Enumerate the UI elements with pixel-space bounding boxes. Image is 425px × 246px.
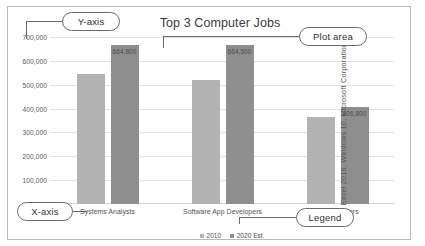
callout-leader-y-axis-drop bbox=[26, 21, 27, 39]
legend-item-2010: 2010 bbox=[200, 232, 221, 239]
chart-legend: 2010 2020 Est. bbox=[200, 232, 265, 239]
callout-leader-plot-area-drop bbox=[163, 36, 164, 48]
callout-y-axis: Y-axis bbox=[62, 12, 120, 31]
bar[interactable] bbox=[192, 80, 220, 204]
legend-label-2020: 2020 Est. bbox=[237, 232, 265, 239]
legend-label-2010: 2010 bbox=[207, 232, 222, 239]
y-axis-tick-label: 400,000 bbox=[22, 105, 47, 112]
bar[interactable] bbox=[307, 117, 335, 204]
callout-leader-legend bbox=[239, 217, 296, 218]
bar[interactable]: 664,500 bbox=[226, 45, 254, 204]
bar[interactable]: 664,800 bbox=[111, 45, 139, 204]
callout-leader-legend-drop bbox=[239, 217, 240, 224]
bar-data-label: 664,500 bbox=[228, 48, 252, 55]
bar[interactable] bbox=[77, 74, 105, 204]
bar-group: 664,800 bbox=[77, 37, 139, 204]
callout-leader-x-axis bbox=[71, 211, 87, 212]
y-axis-tick-label: 100,000 bbox=[22, 177, 47, 184]
y-axis-tick-label: 300,000 bbox=[22, 129, 47, 136]
callout-leader-plot-area bbox=[163, 36, 299, 37]
chart-title: Top 3 Computer Jobs bbox=[130, 16, 310, 30]
y-axis-tick-label: 500,000 bbox=[22, 81, 47, 88]
x-axis-category-label: Software App Developers bbox=[165, 208, 280, 215]
callout-plot-area: Plot area bbox=[299, 27, 367, 46]
source-credit-text: Excel 2016, Windows 10, Microsoft Corpor… bbox=[338, 43, 347, 205]
callout-leader-y-axis bbox=[26, 21, 62, 22]
legend-swatch-icon-2010 bbox=[200, 234, 204, 238]
legend-item-2020: 2020 Est. bbox=[230, 232, 264, 239]
figure-container: Top 3 Computer Jobs 100,000200,000300,00… bbox=[0, 0, 425, 246]
bar-data-label: 664,800 bbox=[113, 48, 137, 55]
y-axis-tick-label: 600,000 bbox=[22, 57, 47, 64]
bar-group: 664,500 bbox=[192, 37, 254, 204]
legend-swatch-icon-2020 bbox=[230, 234, 234, 238]
callout-x-axis: X-axis bbox=[17, 202, 73, 221]
bar-group: 406,800 bbox=[307, 37, 369, 204]
y-axis-tick-label: 200,000 bbox=[22, 153, 47, 160]
callout-legend: Legend bbox=[296, 208, 354, 227]
